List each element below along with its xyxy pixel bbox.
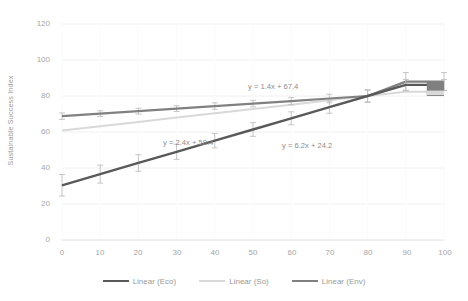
legend-item-eco[interactable]: Linear (Eco) (103, 277, 177, 286)
legend-item-env[interactable]: Linear (Env) (292, 277, 366, 286)
x-tick-20: 20 (125, 249, 151, 257)
equation-label-eco: y = 6.2x + 24.2 (282, 141, 332, 150)
legend-swatch-eco (103, 280, 129, 282)
legend-item-so[interactable]: Linear (So) (199, 277, 269, 286)
legend-label-eco: Linear (Eco) (133, 277, 177, 286)
x-tick-40: 40 (202, 249, 228, 257)
legend-swatch-env (292, 280, 318, 282)
y-tick-60: 60 (20, 128, 50, 136)
series-end-block-so (427, 91, 444, 96)
chart-legend: Linear (Eco) Linear (So) Linear (Env) (0, 272, 468, 290)
chart-container: Sustainable Success Index 120 100 80 60 … (0, 0, 468, 301)
y-tick-20: 20 (20, 200, 50, 208)
y-tick-40: 40 (20, 164, 50, 172)
y-axis-title: Sustainable Success Index (2, 0, 18, 240)
x-tick-90: 90 (394, 249, 420, 257)
x-tick-50: 50 (240, 249, 266, 257)
equation-label-so: y = 2.4x + 58.4 (163, 138, 213, 147)
x-tick-80: 80 (355, 249, 381, 257)
y-axis-title-label: Sustainable Success Index (6, 75, 15, 165)
legend-swatch-so (199, 280, 225, 282)
equation-label-env: y = 1.4x + 67.4 (248, 82, 298, 91)
x-tick-0: 0 (49, 249, 75, 257)
x-tick-100: 100 (432, 249, 458, 257)
x-tick-70: 70 (317, 249, 343, 257)
x-tick-30: 30 (164, 249, 190, 257)
y-tick-100: 100 (20, 56, 50, 64)
y-tick-80: 80 (20, 92, 50, 100)
y-tick-120: 120 (20, 20, 50, 28)
x-tick-10: 10 (87, 249, 113, 257)
legend-label-so: Linear (So) (229, 277, 269, 286)
legend-label-env: Linear (Env) (322, 277, 366, 286)
y-tick-0: 0 (20, 236, 50, 244)
x-tick-60: 60 (279, 249, 305, 257)
